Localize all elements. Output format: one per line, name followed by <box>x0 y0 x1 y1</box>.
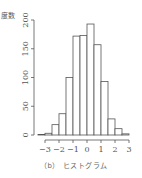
figure-caption: （b） ヒストグラム <box>40 160 108 170</box>
histogram-bar <box>59 114 66 135</box>
histogram-bar <box>122 134 129 135</box>
x-tick-label: −1 <box>67 145 79 154</box>
y-axis-label: 度数 <box>1 11 15 20</box>
histogram-chart: 050100150200−3−2−10123度数 <box>0 0 142 178</box>
histogram-bar <box>66 78 73 136</box>
x-tick-label: −3 <box>39 145 51 154</box>
x-tick-label: 0 <box>84 145 89 154</box>
y-tick-label: 50 <box>21 101 30 111</box>
histogram-bar <box>38 134 45 135</box>
histogram-bar <box>52 125 59 135</box>
histogram-bar <box>108 119 115 135</box>
y-tick-label: 100 <box>21 70 30 85</box>
x-tick-label: 2 <box>112 145 117 154</box>
x-tick-label: −2 <box>53 145 65 154</box>
x-tick-label: 1 <box>98 145 103 154</box>
histogram-bar <box>87 24 94 135</box>
histogram-bar <box>115 129 122 135</box>
y-tick-label: 150 <box>21 41 30 56</box>
histogram-bar <box>45 133 52 135</box>
y-tick-label: 0 <box>21 132 30 137</box>
histogram-bar <box>94 45 101 135</box>
histogram-bar <box>101 82 108 135</box>
y-tick-label: 200 <box>21 12 30 27</box>
histogram-bar <box>73 36 80 135</box>
histogram-bar <box>80 36 87 135</box>
x-tick-label: 3 <box>126 145 131 154</box>
